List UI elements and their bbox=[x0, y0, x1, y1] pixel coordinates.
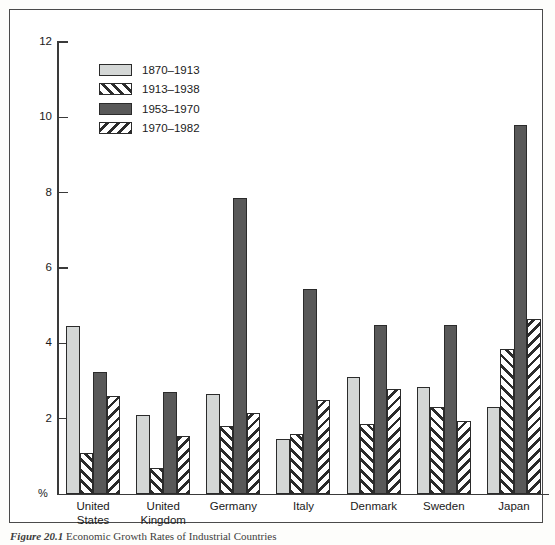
y-axis-tick-label-4: 4 bbox=[12, 337, 52, 349]
y-axis-tick-label-2: 2 bbox=[12, 413, 52, 425]
y-axis-tick-label-wrap-6: 6 bbox=[10, 262, 52, 274]
y-axis-tick-label-6: 6 bbox=[12, 262, 52, 274]
legend-label: 1870–1913 bbox=[142, 64, 200, 76]
y-axis-tick-label-8: 8 bbox=[12, 187, 52, 199]
legend-row-1970-1982: 1970–1982 bbox=[99, 119, 259, 139]
chart-legend: 1870–19131913–19381953–19701970–1982 bbox=[99, 60, 259, 138]
bar-denmark-1913-1938 bbox=[360, 424, 374, 494]
legend-label: 1953–1970 bbox=[142, 103, 200, 115]
bar-germany-1870-1913 bbox=[206, 394, 220, 494]
y-axis-tick-label-10: 10 bbox=[12, 111, 52, 123]
y-axis-tick-label-wrap-10: 10 bbox=[10, 111, 52, 123]
legend-label: 1970–1982 bbox=[142, 122, 200, 134]
legend-row-1913-1938: 1913–1938 bbox=[99, 80, 259, 100]
bar-japan-1870-1913 bbox=[487, 407, 501, 494]
category-label-japan: Japan bbox=[469, 500, 555, 514]
legend-swatch-1953-1970 bbox=[99, 103, 132, 115]
bar-japan-1970-1982 bbox=[527, 319, 541, 494]
bar-united-states-1870-1913 bbox=[66, 326, 80, 494]
bar-sweden-1953-1970 bbox=[444, 325, 458, 495]
figure-caption-text: Economic Growth Rates of Industrial Coun… bbox=[66, 530, 277, 542]
bar-denmark-1953-1970 bbox=[374, 325, 388, 495]
legend-swatch-1913-1938 bbox=[99, 83, 132, 95]
bar-united-kingdom-1913-1938 bbox=[150, 468, 164, 494]
y-axis-tick-label-wrap-2: 2 bbox=[10, 413, 52, 425]
legend-row-1953-1970: 1953–1970 bbox=[99, 99, 259, 119]
legend-row-1870-1913: 1870–1913 bbox=[99, 60, 259, 80]
bar-sweden-1913-1938 bbox=[430, 407, 444, 494]
category-label-line: Japan bbox=[469, 500, 555, 514]
bar-germany-1953-1970 bbox=[233, 198, 247, 494]
bar-italy-1970-1982 bbox=[317, 400, 331, 494]
bar-group-italy bbox=[268, 42, 338, 494]
bar-germany-1970-1982 bbox=[247, 413, 261, 494]
legend-swatch-1970-1982 bbox=[99, 122, 132, 134]
y-axis-tick-label-wrap-12: 12 bbox=[10, 36, 52, 48]
bar-japan-1913-1938 bbox=[500, 349, 514, 494]
legend-label: 1913–1938 bbox=[142, 83, 200, 95]
bar-group-japan bbox=[479, 42, 549, 494]
bar-italy-1870-1913 bbox=[276, 439, 290, 494]
bar-group-denmark bbox=[339, 42, 409, 494]
legend-swatch-1870-1913 bbox=[99, 64, 132, 76]
figure-caption-label: Figure 20.1 bbox=[10, 530, 63, 542]
bar-united-kingdom-1970-1982 bbox=[177, 436, 191, 494]
bar-germany-1913-1938 bbox=[220, 426, 234, 494]
bar-japan-1953-1970 bbox=[514, 125, 528, 494]
chart-plate: 24681012 % UnitedStatesUnitedKingdomGerm… bbox=[9, 9, 543, 523]
y-axis-unit-label: % bbox=[38, 488, 48, 499]
bar-united-states-1953-1970 bbox=[93, 372, 107, 494]
y-axis-tick-label-wrap-8: 8 bbox=[10, 187, 52, 199]
y-axis-tick-label-12: 12 bbox=[12, 36, 52, 48]
bar-italy-1953-1970 bbox=[303, 289, 317, 494]
figure-caption: Figure 20.1 Economic Growth Rates of Ind… bbox=[10, 530, 530, 543]
category-label-line: Kingdom bbox=[118, 514, 208, 528]
bar-sweden-1970-1982 bbox=[457, 421, 471, 494]
bar-denmark-1870-1913 bbox=[347, 377, 361, 494]
bar-group-sweden bbox=[409, 42, 479, 494]
bar-united-states-1970-1982 bbox=[107, 396, 121, 494]
bar-italy-1913-1938 bbox=[290, 434, 304, 494]
bar-united-kingdom-1953-1970 bbox=[163, 392, 177, 494]
y-axis-tick-label-wrap-4: 4 bbox=[10, 337, 52, 349]
figure-container: 24681012 % UnitedStatesUnitedKingdomGerm… bbox=[0, 0, 555, 545]
bar-united-states-1913-1938 bbox=[80, 453, 94, 494]
bar-united-kingdom-1870-1913 bbox=[136, 415, 150, 494]
bar-denmark-1970-1982 bbox=[387, 389, 401, 494]
bar-sweden-1870-1913 bbox=[417, 387, 431, 494]
